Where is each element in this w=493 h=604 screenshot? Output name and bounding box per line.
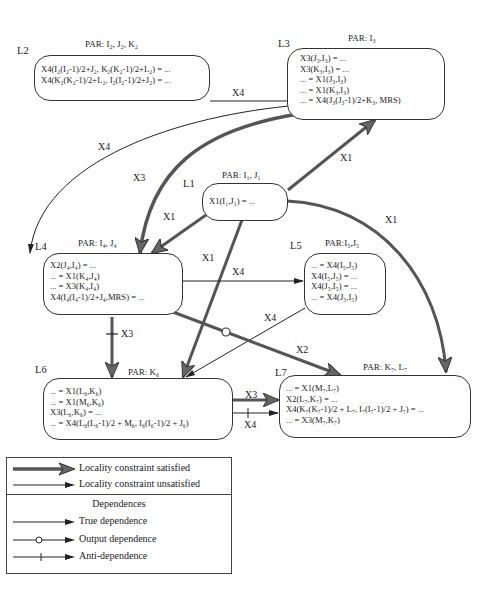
legend-row-satisfied: Locality constraint satisfied (7, 462, 231, 476)
node-l2-line: X4(I₂(I₂-1)/2+J₂, K₂(K₂-1)/2+L₂) = ... (41, 64, 203, 75)
edge-label-l6-l7-x4: X4 (244, 419, 256, 430)
edge-l4-l7 (173, 312, 340, 375)
legend-label: Anti-dependence (79, 550, 147, 561)
edge-label-l1-l4: X1 (163, 211, 175, 222)
legend-label: Output dependence (79, 533, 156, 544)
par-label-l2: PAR: I₂, J₂, K₂ (85, 39, 138, 49)
node-label-l7: L7 (275, 367, 287, 378)
edge-label-l4-l5: X4 (232, 266, 244, 277)
node-l1: X1(I₁,J₁) = ... (202, 183, 288, 221)
legend-row-anti: Anti-dependence (7, 550, 231, 564)
true-dependence-arrow-icon (11, 515, 81, 529)
node-l3: X3(J₃,I₃) = ... X3(K₃,I₃) = ... ... = X1… (287, 48, 445, 120)
legend-row-unsatisfied: Locality constraint unsatisfied (7, 478, 231, 492)
node-l3-line: ... = X4(J₃(J₃-1)/2+K₃, MRS) (300, 95, 438, 106)
par-label-l7: PAR: K₇, L₇ (363, 362, 407, 372)
node-l4-line: X4(I₄(I₄-1)/2+J₄,MRS) = ... (50, 292, 176, 303)
node-l7-line: ... = X3(M₇,K₇) (286, 415, 464, 426)
par-label-l6: PAR: K₆ (128, 367, 159, 377)
edge-label-l1-l3: X1 (340, 152, 352, 163)
node-label-l1: L1 (183, 178, 195, 189)
par-label-l1: PAR: I₁, J₁ (222, 170, 261, 180)
output-dependence-arrow-icon (11, 533, 81, 547)
node-label-l6: L6 (35, 364, 47, 375)
edge-label-l4-l6: X3 (121, 328, 133, 339)
node-l6-line: X3(L₆,K₆) = ... (50, 407, 226, 418)
edge-label-l1-l7: X1 (385, 214, 397, 225)
legend-row-output: Output dependence (7, 533, 231, 547)
edge-l1-l4 (152, 215, 206, 253)
edge-l1-l6 (183, 220, 242, 377)
edge-label-l5-l6: X4 (264, 312, 276, 323)
par-label-l5: PAR:I₅,J₅ (325, 238, 359, 248)
node-l4-line: ... = X3(K₄,I₄) (50, 281, 176, 292)
node-l5-line: ... = X4(J₅,I₅) (311, 292, 379, 303)
node-l2: X4(I₂(I₂-1)/2+J₂, K₂(K₂-1)/2+L₂) = ... X… (34, 55, 210, 101)
thin-arrow-icon (11, 478, 81, 492)
edge-label-l3-l4: X3 (133, 172, 145, 183)
node-l7-line: ... = X1(M₇,L₇) (286, 383, 464, 394)
legend-dependences-title: Dependences (7, 498, 231, 509)
node-l3-line: ... = X1(K₃,I₃) (300, 85, 438, 96)
edge-label-l1-l6: X1 (202, 252, 214, 263)
legend: Locality constraint satisfied Locality c… (6, 457, 232, 574)
node-label-l4: L4 (35, 241, 47, 252)
par-label-l3: PAR: I₃ (348, 33, 376, 43)
node-label-l2: L2 (17, 45, 29, 56)
edge-l1-l3 (288, 120, 375, 190)
node-l7-line: X2(L₇,K₇) = ... (286, 394, 464, 405)
node-l6-line: ... = X4(L₆(L₆-1)/2 + M₆, I₆(I₆-1)/2 + J… (50, 418, 226, 429)
edge-label-l6-l7-x3: X3 (245, 389, 257, 400)
node-label-l5: L5 (290, 240, 302, 251)
node-l3-line: X3(K₃,I₃) = ... (300, 64, 438, 75)
node-l7-line: X4(K₇(K₇-1)/2 + L₇, I₇(I₇-1)/2 + J₇) = .… (286, 404, 464, 415)
legend-label: Locality constraint unsatisfied (79, 478, 200, 489)
node-l3-line: X3(J₃,I₃) = ... (300, 53, 438, 64)
node-l4-line: X2(J₄,I₄) = ... (50, 260, 176, 271)
node-l1-line: X1(I₁,J₁) = ... (209, 196, 281, 207)
node-l2-line: X4(K₂(K₂-1)/2+L₂, I₂(I₂-1)/2+J₂) = ... (41, 75, 203, 86)
node-l5-line: X4(J₅,I₅) = ... (311, 281, 379, 292)
legend-row-true: True dependence (7, 515, 231, 529)
legend-label: Locality constraint satisfied (79, 462, 190, 473)
node-l4: X2(J₄,I₄) = ... ... = X1(K₄,J₄) ... = X3… (43, 253, 183, 315)
edge-label-l2-l4: X4 (98, 141, 110, 152)
edge-label-l2-l3: X4 (232, 87, 244, 98)
anti-dependence-arrow-icon (11, 550, 81, 564)
legend-label: True dependence (79, 515, 147, 526)
node-l6-line: ... = X1(L₆,K₆) (50, 386, 226, 397)
node-l5-line: ... = X4(I₅,J₅) (311, 260, 379, 271)
node-label-l3: L3 (278, 38, 290, 49)
thick-arrow-icon (11, 462, 81, 476)
node-l5-line: X4(I₅,J₅) = ... (311, 271, 379, 282)
node-l6-line: ... = X1(M₆,K₆) (50, 397, 226, 408)
legend-divider (7, 494, 231, 495)
par-label-l4: PAR: I₄, J₄ (78, 238, 117, 248)
node-l7: ... = X1(M₇,L₇) X2(L₇,K₇) = ... X4(K₇(K₇… (279, 375, 471, 438)
node-l4-line: ... = X1(K₄,J₄) (50, 271, 176, 282)
node-l3-line: ... = X1(J₃,I₃) (300, 74, 438, 85)
node-l6: ... = X1(L₆,K₆) ... = X1(M₆,K₆) X3(L₆,K₆… (43, 378, 233, 440)
node-l5: ... = X4(I₅,J₅) X4(I₅,J₅) = ... X4(J₅,I₅… (304, 253, 386, 315)
edge-label-l4-l7: X2 (296, 344, 308, 355)
